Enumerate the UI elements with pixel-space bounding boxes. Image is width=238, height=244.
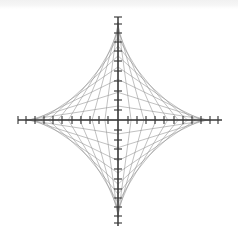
figure-canvas [0,0,238,244]
envelope-segment [118,79,202,120]
envelope-segment [118,56,188,120]
envelope-segment [118,120,178,194]
envelope-segment [118,120,156,209]
envelope-segment [118,120,202,161]
envelope-segment [48,120,118,184]
envelope-segment [118,31,156,120]
envelope-segment [118,120,188,184]
astroid-envelope-plot [0,0,238,244]
envelope-segment [80,120,118,209]
envelope-segment [48,56,118,120]
envelope-segment [34,79,118,120]
envelope-segment [118,46,178,120]
envelope-segment [58,120,118,194]
envelope-segment [80,31,118,120]
envelope-segment [58,46,118,120]
envelope-segment [34,120,118,161]
